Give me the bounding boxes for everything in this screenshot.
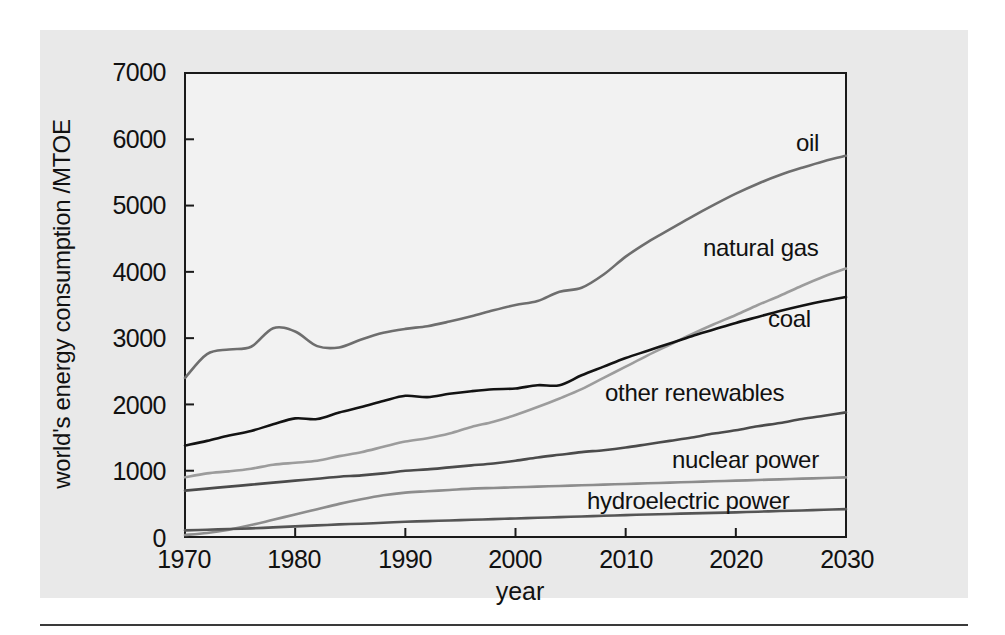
series-label-coal: coal xyxy=(768,305,811,333)
x-tick-label: 2010 xyxy=(571,545,681,574)
x-tick-label: 2000 xyxy=(460,545,570,574)
x-axis-title: year xyxy=(380,577,660,606)
x-tick-label: 1980 xyxy=(239,545,349,574)
series-label-hydroelectric-power: hydroelectric power xyxy=(587,487,789,515)
y-tick-label: 5000 xyxy=(76,191,166,220)
x-tick-label: 1990 xyxy=(350,545,460,574)
x-tick-label: 1970 xyxy=(129,545,239,574)
series-label-oil: oil xyxy=(796,129,819,157)
series-label-natural-gas: natural gas xyxy=(703,234,818,262)
y-tick-label: 3000 xyxy=(76,324,166,353)
y-tick-label: 2000 xyxy=(76,391,166,420)
x-tick-label: 2020 xyxy=(681,545,791,574)
y-tick-label: 1000 xyxy=(76,457,166,486)
x-tick-label: 2030 xyxy=(792,545,902,574)
series-line-coal xyxy=(185,297,846,445)
series-line-oil xyxy=(185,156,846,378)
y-tick-label: 4000 xyxy=(76,258,166,287)
y-tick-label: 7000 xyxy=(76,58,166,87)
series-label-other-renewables: other renewables xyxy=(605,379,784,407)
y-axis-title: world's energy consumption /MTOE xyxy=(48,94,76,514)
chart-page: 0 1000 2000 3000 4000 5000 6000 7000 197… xyxy=(0,0,1005,635)
y-tick-label: 6000 xyxy=(76,125,166,154)
series-label-nuclear-power: nuclear power xyxy=(672,446,819,474)
bottom-divider xyxy=(40,624,968,626)
